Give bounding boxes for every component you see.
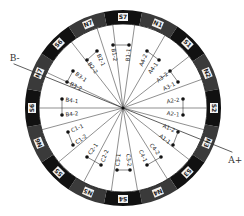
- pole-label: S7: [119, 13, 128, 20]
- coil-terminal-dot: [85, 155, 89, 159]
- coil-terminal-dot: [176, 80, 180, 84]
- coil-terminal-dot: [66, 130, 70, 134]
- coil-label: B1-1: [124, 48, 131, 61]
- coil-terminal-dot: [181, 113, 185, 117]
- motor-winding-diagram: S7N1S1N2S2N3S3N4S4N5S5N6S6N7S6N7 A+B- A4…: [0, 0, 244, 216]
- axis-label: A+: [227, 155, 242, 165]
- coil-terminal-dot: [171, 143, 175, 147]
- coil-label: C3-1: [114, 153, 121, 166]
- pole-label: S4: [119, 196, 128, 203]
- coil-terminal-dot: [60, 97, 64, 101]
- pole-label: S2: [211, 104, 218, 113]
- axis-label: B-: [10, 53, 20, 63]
- coil-terminal-dot: [95, 49, 99, 53]
- coil-terminal-dot: [127, 43, 131, 47]
- coil-terminal-dot: [115, 168, 119, 172]
- pole-label: S6: [28, 104, 35, 113]
- coil-terminal-dot: [157, 58, 161, 62]
- coil-terminal-dot: [71, 69, 75, 73]
- center-point: [122, 107, 125, 110]
- coil-terminal-dot: [145, 163, 149, 167]
